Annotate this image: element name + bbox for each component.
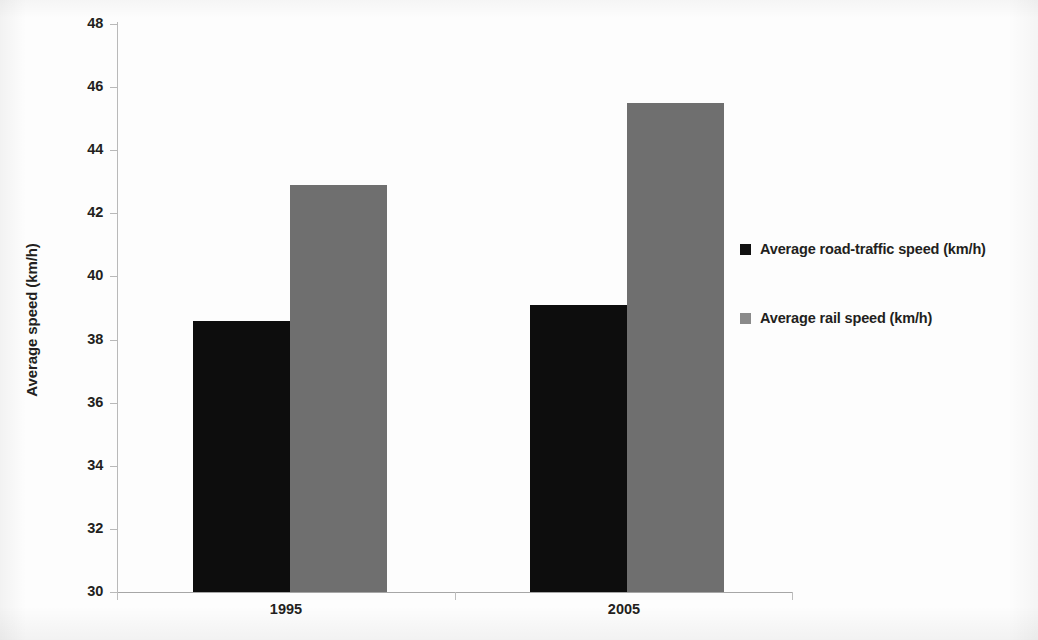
y-axis-tick-label: 38: [63, 331, 103, 347]
bar-1995-road[interactable]: [193, 321, 290, 592]
legend-swatch-road-icon: [740, 244, 751, 255]
y-axis-tick-label: 30: [63, 583, 103, 599]
y-axis-tick-label: 42: [63, 204, 103, 220]
bar-2005-road[interactable]: [530, 305, 627, 592]
y-axis-tick-label: 44: [63, 141, 103, 157]
y-axis-tick-mark: [110, 150, 117, 151]
y-axis-tick-label: 34: [63, 457, 103, 473]
x-axis-tick-mark: [455, 592, 456, 600]
y-axis-tick-mark: [110, 87, 117, 88]
x-axis-tick-mark: [792, 592, 793, 600]
y-axis-tick-mark: [110, 403, 117, 404]
bar-2005-rail[interactable]: [627, 103, 724, 592]
legend-item-rail[interactable]: Average rail speed (km/h): [740, 307, 1030, 329]
bar-chart: Average speed (km/h) 3032343638404244464…: [0, 0, 1038, 640]
legend-item-road[interactable]: Average road-traffic speed (km/h): [740, 238, 1030, 260]
x-axis-category-label-2005: 2005: [524, 601, 724, 617]
x-axis-tick-mark: [117, 592, 118, 600]
legend-label: Average road-traffic speed (km/h): [760, 241, 986, 257]
bar-1995-rail[interactable]: [290, 185, 387, 592]
plot-area: 30323436384042444648: [117, 24, 792, 592]
y-axis-tick-mark: [110, 276, 117, 277]
y-axis-tick-label: 40: [63, 267, 103, 283]
y-axis-tick-label: 48: [63, 15, 103, 31]
y-axis-tick-mark: [110, 340, 117, 341]
legend-swatch-rail-icon: [740, 313, 751, 324]
y-axis-tick-label: 32: [63, 520, 103, 536]
y-axis-tick-mark: [110, 529, 117, 530]
x-axis-category-label-1995: 1995: [186, 601, 386, 617]
y-axis-tick-mark: [110, 592, 117, 593]
y-axis-tick-mark: [110, 466, 117, 467]
y-axis-title: Average speed (km/h): [16, 0, 46, 640]
y-axis-tick-label: 36: [63, 394, 103, 410]
y-axis-tick-label: 46: [63, 78, 103, 94]
legend-label: Average rail speed (km/h): [760, 310, 932, 326]
chart-legend: Average road-traffic speed (km/h)Average…: [740, 238, 1030, 376]
y-axis-tick-mark: [110, 213, 117, 214]
y-axis-tick-mark: [110, 24, 117, 25]
